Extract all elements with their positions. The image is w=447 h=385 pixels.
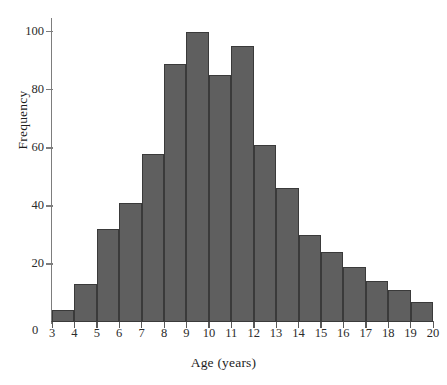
histogram-bar [254, 145, 276, 322]
y-tick-label: 40 [14, 199, 44, 212]
histogram-bar [276, 188, 298, 322]
histogram-bar [209, 75, 231, 322]
y-tick-label-wrap: 80 [8, 83, 44, 97]
plot-area [52, 20, 433, 322]
y-axis-title: Frequency [15, 60, 31, 180]
histogram-bar [366, 281, 388, 322]
y-tick-label: 60 [14, 141, 44, 154]
histogram-bar [231, 46, 253, 322]
histogram-bar [343, 267, 365, 322]
histogram-bar [119, 203, 141, 322]
y-tick-label-wrap: 20 [8, 257, 44, 271]
histogram-bar [299, 235, 321, 322]
histogram-bar [411, 302, 433, 322]
y-tick-label-wrap: 100 [8, 25, 44, 39]
histogram-bar [186, 32, 208, 322]
x-tick-label: 20 [420, 327, 446, 340]
y-tick-label-wrap: 40 [8, 199, 44, 213]
histogram-bar [52, 310, 74, 322]
y-tick-label: 100 [14, 25, 44, 38]
histogram-bar [74, 284, 96, 322]
y-tick-label: 20 [14, 257, 44, 270]
histogram-bar [97, 229, 119, 322]
histogram-bar [142, 154, 164, 322]
histogram-figure: Frequency Age (years) 0 20406080100 3456… [0, 0, 447, 385]
y-tick-label-wrap: 60 [8, 141, 44, 155]
y-tick-label: 80 [14, 83, 44, 96]
histogram-bar [388, 290, 410, 322]
x-axis-title: Age (years) [0, 355, 447, 371]
histogram-bar [164, 64, 186, 322]
histogram-bar [321, 252, 343, 322]
